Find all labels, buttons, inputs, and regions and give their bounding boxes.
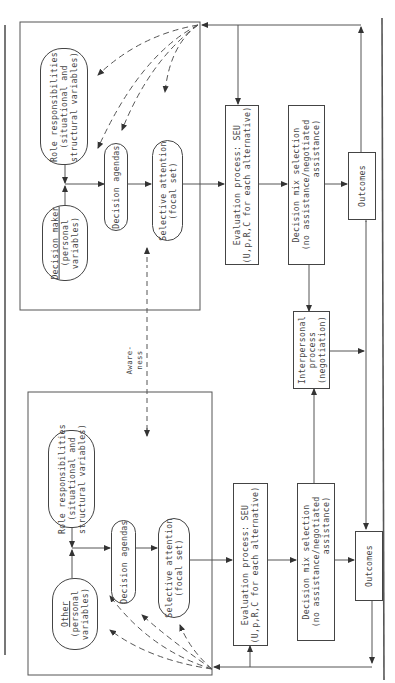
- role-responsibilities-box-lower: Role responsibilities (situational and s…: [48, 430, 95, 528]
- evaluation-process-box-upper: Evaluation process: SEU (U,p,R,C for eac…: [225, 105, 259, 265]
- decision-agendas-box-upper: Decision agendas: [104, 143, 128, 231]
- decision-agendas-box-lower: Decision agendas: [111, 520, 136, 604]
- awareness-label: Aware- ness: [124, 340, 146, 380]
- decision-mix-box-upper: Decision mix selection (no assistance/ne…: [288, 105, 325, 265]
- selective-attention-box-upper: Selective attention (focal set): [152, 140, 183, 241]
- evaluation-process-box-lower: Evaluation process: SEU (U,p,R,C for eac…: [233, 483, 268, 646]
- selective-attention-box-lower: Selective attention (focal set): [158, 518, 190, 618]
- decision-mix-box-lower: Decision mix selection (no assistance/ne…: [297, 483, 335, 641]
- decision-maker-box: Decision maker (personal variables): [42, 205, 88, 281]
- other-party-box: Other (personal variables): [52, 578, 98, 650]
- outcomes-box-upper: Outcomes: [348, 152, 376, 220]
- role-responsibilities-box-upper: Role responsibilities (situational and s…: [40, 48, 88, 165]
- outcomes-box-lower: Outcomes: [355, 531, 383, 601]
- interpersonal-process-box: Interpersonal process (negotiation): [293, 311, 330, 389]
